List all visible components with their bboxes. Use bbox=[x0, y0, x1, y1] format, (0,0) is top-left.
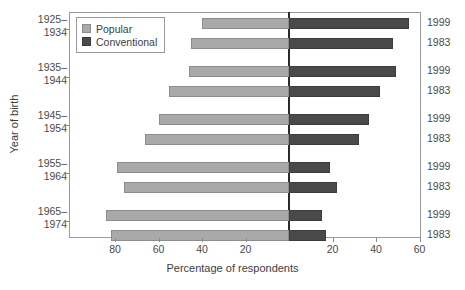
y-axis-tick bbox=[64, 221, 69, 222]
x-axis-tick-label: 40 bbox=[196, 243, 208, 255]
survey-year-label: 1999 bbox=[427, 64, 450, 76]
bar-popular bbox=[202, 18, 289, 29]
legend-swatch-popular bbox=[82, 24, 91, 33]
y-axis-title: Year of birth bbox=[8, 74, 20, 174]
x-axis-tick-label: 60 bbox=[153, 243, 165, 255]
x-axis-tick-label: 80 bbox=[109, 243, 121, 255]
bar-popular bbox=[189, 66, 289, 77]
legend-item-conventional: Conventional bbox=[82, 35, 157, 48]
bar-conventional bbox=[289, 86, 380, 97]
x-axis-tick-label: 20 bbox=[240, 243, 252, 255]
bar-popular bbox=[106, 210, 289, 221]
y-group-label: 1945–1954 bbox=[38, 109, 67, 134]
legend-label-conventional: Conventional bbox=[96, 36, 157, 48]
bar-popular bbox=[124, 182, 289, 193]
y-group-label-line2: 1934 bbox=[38, 26, 67, 39]
y-group-label-line1: 1965– bbox=[38, 205, 67, 218]
y-group-label: 1925–1934 bbox=[38, 13, 67, 38]
chart-legend: Popular Conventional bbox=[76, 17, 165, 53]
bar-popular bbox=[169, 86, 289, 97]
survey-year-label: 1999 bbox=[427, 208, 450, 220]
x-axis-tick-label: 20 bbox=[327, 243, 339, 255]
y-axis-tick bbox=[64, 29, 69, 30]
bar-popular bbox=[111, 230, 289, 241]
y-group-label-line2: 1954 bbox=[38, 122, 67, 135]
y-axis-tick bbox=[64, 77, 69, 78]
y-group-label-line2: 1944 bbox=[38, 74, 67, 87]
bar-popular bbox=[117, 162, 289, 173]
y-group-label-line2: 1964 bbox=[38, 170, 67, 183]
y-group-label: 1935–1944 bbox=[38, 61, 67, 86]
y-group-label-line1: 1945– bbox=[38, 109, 67, 122]
x-axis-title: Percentage of respondents bbox=[0, 262, 465, 274]
bar-conventional bbox=[289, 210, 322, 221]
y-axis-tick bbox=[64, 173, 69, 174]
x-axis-tick-mark bbox=[376, 238, 377, 242]
bar-conventional bbox=[289, 114, 369, 125]
x-axis-tick-label: 60 bbox=[414, 243, 426, 255]
y-group-label-line1: 1955– bbox=[38, 157, 67, 170]
survey-year-label: 1983 bbox=[427, 36, 450, 48]
survey-year-label: 1999 bbox=[427, 112, 450, 124]
bar-popular bbox=[159, 114, 290, 125]
survey-year-label: 1999 bbox=[427, 16, 450, 28]
survey-year-label: 1983 bbox=[427, 180, 450, 192]
legend-item-popular: Popular bbox=[82, 22, 157, 35]
x-axis-tick-mark bbox=[333, 238, 334, 242]
y-group-label-line2: 1974 bbox=[38, 218, 67, 231]
bar-conventional bbox=[289, 230, 326, 241]
bar-popular bbox=[145, 134, 289, 145]
bar-conventional bbox=[289, 38, 393, 49]
x-axis-tick-mark bbox=[420, 238, 421, 242]
x-axis-tick-label: 40 bbox=[370, 243, 382, 255]
x-axis-tick-mark bbox=[115, 238, 116, 242]
y-axis-tick bbox=[64, 125, 69, 126]
y-group-label: 1965–1974 bbox=[38, 205, 67, 230]
y-group-label-line1: 1935– bbox=[38, 61, 67, 74]
survey-year-label: 1983 bbox=[427, 84, 450, 96]
bar-conventional bbox=[289, 18, 409, 29]
legend-label-popular: Popular bbox=[96, 23, 132, 35]
y-group-label: 1955–1964 bbox=[38, 157, 67, 182]
x-axis-tick-mark bbox=[159, 238, 160, 242]
y-group-label-line1: 1925– bbox=[38, 13, 67, 26]
bar-conventional bbox=[289, 134, 359, 145]
legend-swatch-conventional bbox=[82, 37, 91, 46]
x-axis-tick-mark bbox=[246, 238, 247, 242]
x-axis-tick-mark bbox=[202, 238, 203, 242]
bar-popular bbox=[191, 38, 289, 49]
survey-year-label: 1983 bbox=[427, 132, 450, 144]
bar-conventional bbox=[289, 66, 396, 77]
survey-year-label: 1999 bbox=[427, 160, 450, 172]
bar-conventional bbox=[289, 162, 330, 173]
bar-conventional bbox=[289, 182, 337, 193]
chart-container: 1925–19341935–19441945–19541955–19641965… bbox=[0, 0, 465, 290]
survey-year-label: 1983 bbox=[427, 228, 450, 240]
